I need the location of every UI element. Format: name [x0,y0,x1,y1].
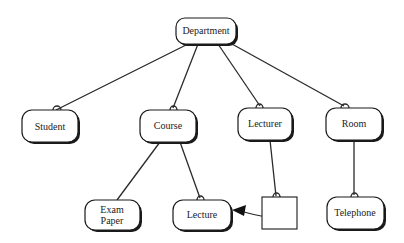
node-label-line-2: Paper [101,215,124,226]
node-lecture[interactable]: Lecture [173,200,233,232]
edge-course-lecture [180,142,200,198]
edge-department-student [56,44,188,110]
node-exam-paper[interactable]: Exam Paper [85,200,142,232]
node-label: Room [342,118,367,129]
node-lecturer[interactable]: Lecturer [238,108,294,142]
node-label-line-1: Exam [100,204,124,215]
node-label: Lecture [187,209,218,220]
arrowhead [232,205,246,216]
node-label: Student [35,121,66,132]
node-telephone[interactable]: Telephone [327,197,386,231]
node-student[interactable]: Student [22,110,80,144]
loop-markers [53,104,358,200]
node-room[interactable]: Room [326,108,384,142]
edge-department-course [173,44,198,108]
node-label: Telephone [334,207,376,218]
node-label: Course [154,120,183,131]
edge-department-lecturer [218,44,260,106]
node-department[interactable]: Department [176,18,238,46]
diagram-canvas: Department Student Course Lecturer Room … [0,0,404,243]
node-label: Department [182,25,229,36]
node-course[interactable]: Course [140,110,198,144]
node-association-box[interactable] [262,197,297,229]
node-label: Lecturer [248,118,283,129]
edge-lecturer-association [270,140,276,196]
edge-course-examPaper [117,142,160,200]
edges [56,44,354,217]
edge-department-room [232,44,344,106]
